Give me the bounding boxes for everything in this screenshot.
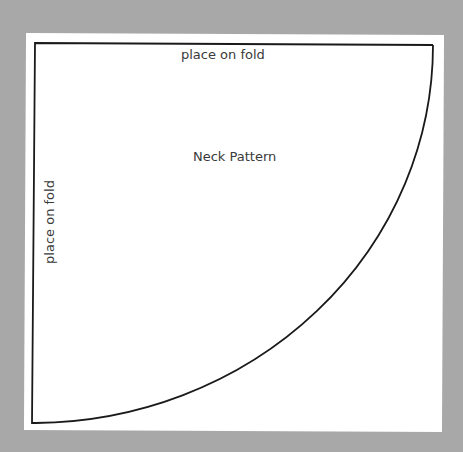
neck-pattern-outline [0,0,463,452]
top-fold-label: place on fold [181,47,265,62]
left-fold-label: place on fold [42,180,57,264]
pattern-title: Neck Pattern [193,149,276,164]
